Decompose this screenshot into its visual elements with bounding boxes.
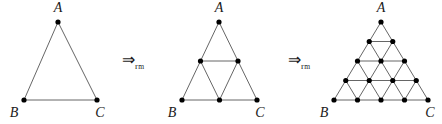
triangle-edge [393, 61, 405, 81]
triangle-edge [369, 42, 381, 62]
triangle-diagram: ABCABCABC [0, 0, 442, 124]
triangle-edge [381, 42, 393, 62]
lattice-vertex [425, 97, 430, 102]
triangle-edge [346, 81, 358, 101]
triangle-edge [358, 61, 370, 81]
triangle-edge [220, 61, 239, 100]
lattice-vertex [343, 78, 348, 83]
double-arrow-icon: ⇒ [122, 51, 135, 68]
lattice-vertex [378, 97, 383, 102]
triangle-edge [369, 81, 381, 101]
vertex-label-a: A [53, 0, 63, 15]
triangle-edge [405, 61, 417, 81]
triangle-edge [358, 81, 370, 101]
triangle-level-1-vertices [21, 19, 99, 102]
triangle-edge [238, 61, 257, 100]
refinement-arrow-2: ⇒rm [288, 52, 310, 71]
lattice-vertex [254, 97, 259, 102]
lattice-vertex [55, 19, 60, 24]
lattice-vertex [414, 78, 419, 83]
figure-canvas: ABCABCABC ⇒rm ⇒rm [0, 0, 442, 124]
triangle-edge [358, 42, 370, 62]
lattice-vertex [21, 97, 26, 102]
vertex-label-b: B [168, 105, 177, 120]
lattice-vertex [378, 58, 383, 63]
lattice-vertex [378, 19, 383, 24]
triangle-edge [346, 61, 358, 81]
labels-layer: ABCABCABC [10, 0, 436, 120]
vertex-label-b: B [10, 105, 19, 120]
triangle-edge [24, 22, 58, 100]
triangle-edge [219, 22, 238, 61]
vertex-label-a: A [214, 0, 224, 15]
arrow-subscript: rm [135, 61, 144, 71]
lattice-vertex [367, 39, 372, 44]
triangle-edge [182, 61, 201, 100]
triangle-edge [201, 22, 220, 61]
lattice-vertex [198, 58, 203, 63]
vertex-label-c: C [95, 105, 105, 120]
triangle-refinement-svg: ABCABCABC [0, 0, 442, 124]
triangle-edge [393, 81, 405, 101]
triangle-edge [405, 81, 417, 101]
triangle-edge [369, 61, 381, 81]
lattice-vertex [390, 39, 395, 44]
triangle-edge [334, 81, 346, 101]
lattice-vertex [179, 97, 184, 102]
triangle-edge [381, 22, 393, 42]
refinement-arrow-1: ⇒rm [122, 52, 144, 71]
vertex-label-a: A [376, 0, 386, 15]
lattice-vertex [367, 78, 372, 83]
lattice-vertex [355, 58, 360, 63]
vertex-label-c: C [255, 105, 265, 120]
lattice-vertex [402, 58, 407, 63]
triangle-edge [369, 22, 381, 42]
vertex-label-b: B [320, 105, 329, 120]
edges-layer [24, 22, 428, 100]
lattice-vertex [217, 97, 222, 102]
arrow-subscript: rm [301, 61, 310, 71]
vertex-label-c: C [425, 105, 435, 120]
triangle-edge [416, 81, 428, 101]
triangle-edge [58, 22, 97, 100]
triangle-level-4-labels: ABC [320, 0, 436, 120]
lattice-vertex [390, 78, 395, 83]
triangle-level-1 [24, 22, 97, 100]
triangle-level-4-vertices [331, 19, 430, 102]
triangle-level-2 [182, 22, 257, 100]
triangle-edge [393, 42, 405, 62]
triangle-edge [381, 81, 393, 101]
triangle-edge [381, 61, 393, 81]
lattice-vertex [235, 58, 240, 63]
lattice-vertex [402, 97, 407, 102]
lattice-vertex [94, 97, 99, 102]
double-arrow-icon: ⇒ [288, 51, 301, 68]
lattice-vertex [216, 19, 221, 24]
lattice-vertex [355, 97, 360, 102]
lattice-vertex [331, 97, 336, 102]
triangle-edge [201, 61, 220, 100]
